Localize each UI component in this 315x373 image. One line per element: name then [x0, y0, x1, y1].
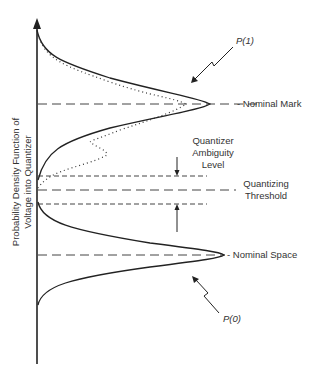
y-axis-label: Probability Density Function of Voltage … — [10, 87, 34, 277]
arrow-down-icon — [175, 170, 180, 176]
ambiguity-label: Quantizer Ambiguity Level — [183, 135, 243, 171]
nominal-mark-label: - Nominal Mark — [237, 98, 301, 110]
threshold-label: Quantizing Threshold — [236, 178, 296, 202]
axis-arrow-icon — [33, 18, 41, 29]
p1-label: P(1) — [236, 35, 254, 47]
threshold-label-line1: Quantizing — [236, 178, 296, 190]
y-axis-label-line2: Voltage into Quantizer — [22, 87, 34, 277]
threshold-label-line2: Threshold — [236, 190, 296, 202]
p1-pointer — [195, 47, 233, 79]
y-axis-label-line1: Probability Density Function of — [10, 87, 22, 277]
distorted-p1-curve — [38, 34, 186, 188]
p0-curve — [38, 202, 224, 305]
ambiguity-label-line1: Quantizer — [183, 135, 243, 147]
p0-pointer — [196, 280, 219, 313]
arrow-up-icon — [175, 204, 180, 210]
ambiguity-label-line2: Ambiguity — [183, 147, 243, 159]
p0-label: P(0) — [223, 313, 241, 325]
nominal-space-label: - Nominal Space — [227, 249, 297, 261]
ambiguity-label-line3: Level — [183, 159, 243, 171]
